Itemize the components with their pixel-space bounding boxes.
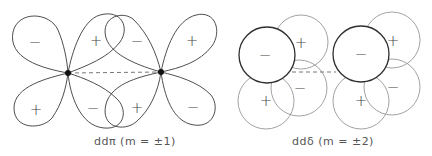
sign-plus: + bbox=[355, 92, 368, 110]
sign-plus: + bbox=[90, 32, 103, 50]
internuclear-axis bbox=[68, 72, 161, 73]
sign-minus: − bbox=[294, 79, 307, 97]
sign-plus: + bbox=[260, 92, 273, 110]
sign-minus: − bbox=[355, 45, 368, 63]
sign-plus: + bbox=[131, 99, 144, 117]
sign-minus: − bbox=[259, 46, 272, 64]
sign-minus: − bbox=[187, 98, 200, 116]
sign-minus: − bbox=[29, 33, 42, 51]
sign-plus: + bbox=[186, 32, 199, 50]
sign-plus: + bbox=[30, 101, 43, 119]
caption-dd-pi: ddπ (m = ±1) bbox=[94, 135, 176, 148]
sign-minus: − bbox=[131, 32, 144, 50]
nucleus-left bbox=[65, 70, 71, 76]
sign-plus: + bbox=[387, 32, 400, 50]
sign-minus: − bbox=[87, 99, 100, 117]
sign-plus: + bbox=[295, 34, 308, 52]
dd-delta-diagram: − + − + − + − + bbox=[238, 12, 420, 129]
orbital-overlap-diagrams: − + + − − + + − − + − + − + − + bbox=[0, 0, 432, 156]
sign-minus: − bbox=[387, 78, 400, 96]
nucleus-right bbox=[158, 69, 164, 75]
caption-dd-delta: ddδ (m = ±2) bbox=[292, 135, 374, 148]
dd-pi-diagram: − + + − − + + − bbox=[12, 14, 216, 128]
